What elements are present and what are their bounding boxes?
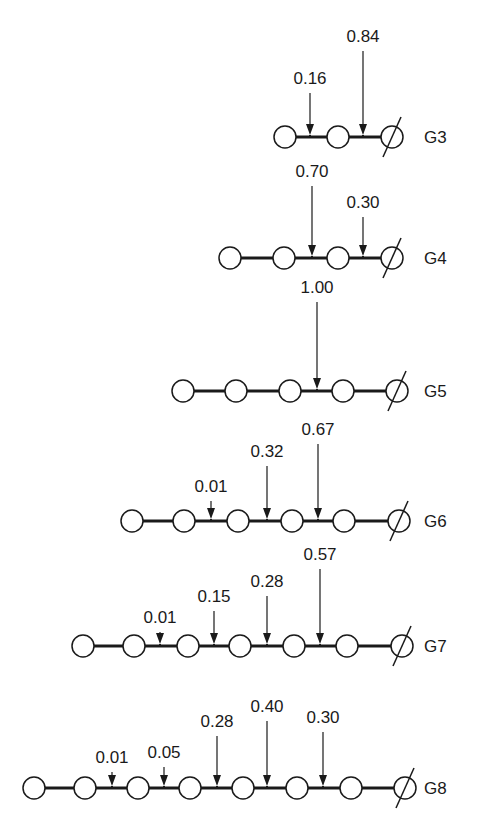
probability-label: 0.30 <box>306 708 339 727</box>
arrow-head-icon <box>306 124 314 135</box>
probability-label: 0.67 <box>301 420 334 439</box>
chain-row-g8: 0.010.050.280.400.30G8 <box>23 697 447 808</box>
node-circle <box>232 777 254 799</box>
node-circle <box>123 635 145 657</box>
probability-label: 0.70 <box>295 162 328 181</box>
arrow-head-icon <box>263 508 271 519</box>
arrow-head-icon <box>316 633 324 644</box>
node-circle <box>225 380 247 402</box>
probability-label: 1.00 <box>300 278 333 297</box>
arrow-head-icon <box>156 633 164 644</box>
probability-label: 0.32 <box>250 442 283 461</box>
node-circle <box>179 777 201 799</box>
node-circle <box>127 777 149 799</box>
probability-label: 0.15 <box>197 587 230 606</box>
node-circle <box>219 247 241 269</box>
arrow-head-icon <box>263 775 271 786</box>
chain-row-g5: 1.00G5 <box>172 278 447 411</box>
node-circle <box>336 635 358 657</box>
node-circle <box>274 126 296 148</box>
chain-row-g4: 0.700.30G4 <box>219 162 447 278</box>
chain-row-g6: 0.010.320.67G6 <box>121 420 447 541</box>
node-circle <box>23 777 45 799</box>
node-circle <box>283 635 305 657</box>
arrow-head-icon <box>213 775 221 786</box>
node-circle <box>229 635 251 657</box>
arrow-head-icon <box>160 775 168 786</box>
row-label: G3 <box>424 128 447 147</box>
node-circle <box>327 126 349 148</box>
row-label: G8 <box>424 779 447 798</box>
probability-label: 0.28 <box>200 712 233 731</box>
probability-label: 0.01 <box>143 608 176 627</box>
node-circle <box>333 510 355 532</box>
node-circle <box>172 380 194 402</box>
arrow-head-icon <box>314 508 322 519</box>
probability-label: 0.40 <box>250 697 283 716</box>
node-circle <box>227 510 249 532</box>
arrow-head-icon <box>319 775 327 786</box>
chain-row-g3: 0.160.84G3 <box>274 27 447 157</box>
row-label: G6 <box>424 512 447 531</box>
arrow-head-icon <box>313 378 321 389</box>
arrow-head-icon <box>108 775 116 786</box>
row-label: G4 <box>424 249 447 268</box>
probability-label: 0.84 <box>346 27 379 46</box>
chain-diagram: 0.160.84G30.700.30G41.00G50.010.320.67G6… <box>0 0 490 835</box>
probability-label: 0.01 <box>95 748 128 767</box>
probability-label: 0.57 <box>303 545 336 564</box>
probability-label: 0.30 <box>346 193 379 212</box>
node-circle <box>72 635 94 657</box>
chain-row-g7: 0.010.150.280.57G7 <box>72 545 447 666</box>
node-circle <box>273 247 295 269</box>
arrow-head-icon <box>263 633 271 644</box>
node-circle <box>340 777 362 799</box>
node-circle <box>177 635 199 657</box>
probability-label: 0.28 <box>250 572 283 591</box>
probability-label: 0.16 <box>293 69 326 88</box>
node-circle <box>121 510 143 532</box>
node-circle <box>173 510 195 532</box>
arrow-head-icon <box>359 245 367 256</box>
node-circle <box>332 380 354 402</box>
row-label: G7 <box>424 637 447 656</box>
row-label: G5 <box>424 382 447 401</box>
arrow-head-icon <box>207 508 215 519</box>
arrow-head-icon <box>210 633 218 644</box>
node-circle <box>281 510 303 532</box>
node-circle <box>327 247 349 269</box>
arrow-head-icon <box>359 124 367 135</box>
node-circle <box>286 777 308 799</box>
node-circle <box>74 777 96 799</box>
node-circle <box>279 380 301 402</box>
arrow-head-icon <box>308 245 316 256</box>
probability-label: 0.01 <box>194 477 227 496</box>
probability-label: 0.05 <box>147 743 180 762</box>
